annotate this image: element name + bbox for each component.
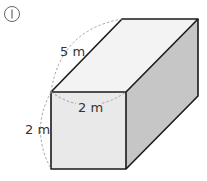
height-label: 2 m bbox=[25, 122, 50, 137]
prism-diagram: 5 m 2 m 2 m bbox=[0, 0, 207, 181]
problem-number-badge bbox=[5, 7, 20, 22]
length-label: 5 m bbox=[60, 44, 85, 59]
width-label: 2 m bbox=[78, 100, 103, 115]
